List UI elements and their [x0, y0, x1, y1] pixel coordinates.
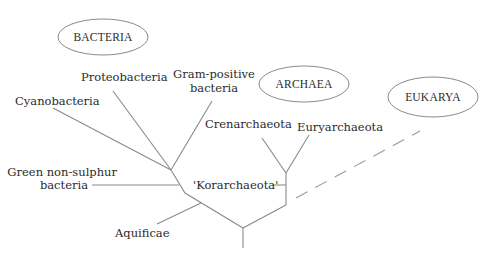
gram-positive-branch — [171, 101, 212, 170]
phylogenetic-tree-diagram: BACTERIA ARCHAEA EUKARYA — [0, 0, 490, 261]
proteobacteria-label: Proteobacteria — [81, 70, 168, 84]
euryarchaeota-branch — [286, 135, 309, 173]
crenarchaeota-label: Crenarchaeota — [205, 117, 292, 131]
green-non-sulphur-label-line1: Green non-sulphur — [7, 165, 117, 179]
archaea-domain: ARCHAEA — [259, 66, 349, 102]
korarchaeota-label: 'Korarchaeota' — [193, 178, 278, 192]
gram-positive-label-line2: bacteria — [190, 81, 238, 95]
bacteria-label: BACTERIA — [73, 31, 133, 43]
aquificae-branch — [157, 203, 201, 224]
aquificae-label: Aquificae — [114, 226, 170, 240]
gram-positive-label-line1: Gram-positive — [173, 67, 255, 81]
archaea-label: ARCHAEA — [276, 78, 333, 90]
crenarchaeota-branch — [262, 138, 286, 173]
euryarchaeota-label: Euryarchaeota — [297, 120, 383, 134]
proteobacteria-branch — [113, 91, 171, 170]
cyanobacteria-branch — [53, 108, 171, 170]
archaea-trunk — [243, 205, 286, 228]
bacteria-domain: BACTERIA — [58, 19, 148, 55]
green-non-sulphur-label-line2: bacteria — [40, 178, 88, 192]
eukarya-label: EUKARYA — [405, 91, 461, 103]
eukarya-domain: EUKARYA — [388, 77, 478, 117]
eukarya-dashed-branch — [296, 131, 420, 198]
tree-svg: BACTERIA ARCHAEA EUKARYA — [0, 0, 490, 261]
cyanobacteria-label: Cyanobacteria — [15, 94, 100, 108]
